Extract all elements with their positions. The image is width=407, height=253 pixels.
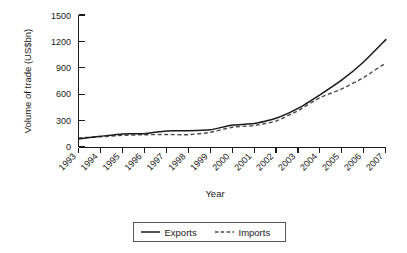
- x-tick-label: 1996: [122, 151, 143, 172]
- x-tick-label: 2006: [342, 151, 363, 172]
- x-tick-label: 2004: [298, 151, 319, 172]
- series-line-exports: [79, 40, 386, 139]
- x-tick-label: 1998: [166, 151, 187, 172]
- x-tick-label: 1999: [188, 151, 209, 172]
- x-tick-label: 1995: [101, 151, 122, 172]
- series-line-imports: [79, 63, 386, 138]
- y-tick-label: 0: [66, 142, 71, 152]
- y-tick-label: 600: [56, 89, 71, 99]
- y-tick-marks: [79, 15, 86, 147]
- x-tick-label: 2000: [210, 151, 231, 172]
- legend-label-imports: Imports: [239, 227, 271, 238]
- y-tick-label: 1200: [51, 37, 71, 47]
- y-tick-label: 1500: [51, 11, 71, 21]
- x-tick-label: 2005: [320, 151, 341, 172]
- x-tick-label: 1997: [144, 151, 165, 172]
- x-tick-label: 1993: [57, 151, 78, 172]
- y-axis-title: Volume of trade (US$bn): [22, 29, 33, 134]
- x-tick-label: 2007: [364, 151, 385, 172]
- x-axis-title: Year: [205, 188, 224, 199]
- chart-figure: Volume of trade (US$bn) 1500 1200 900 60…: [0, 0, 407, 253]
- y-tick-label: 300: [56, 116, 71, 126]
- chart-legend: Exports Imports: [134, 223, 286, 242]
- x-tick-label: 2001: [232, 151, 253, 172]
- x-tick-label: 1994: [79, 151, 100, 172]
- x-tick-marks: [79, 148, 386, 153]
- x-tick-label: 2003: [276, 151, 297, 172]
- y-tick-label: 900: [56, 63, 71, 73]
- line-chart-svg: Volume of trade (US$bn) 1500 1200 900 60…: [0, 0, 407, 253]
- x-tick-labels: 1993 1994 1995 1996 1997 1998 1999 2000 …: [57, 151, 386, 172]
- x-tick-label: 2002: [254, 151, 275, 172]
- legend-label-exports: Exports: [165, 227, 197, 238]
- y-tick-labels: 1500 1200 900 600 300 0: [51, 11, 71, 153]
